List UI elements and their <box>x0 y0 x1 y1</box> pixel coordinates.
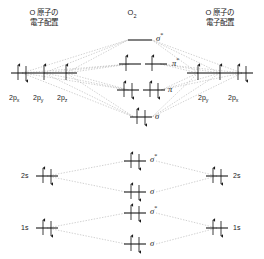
correlation-lines-2s <box>47 161 217 192</box>
correlation-lines-1s <box>47 213 217 244</box>
label-pi-star-2p: π* <box>172 57 179 68</box>
label-sigma-star-2p: σ* <box>156 32 163 43</box>
label-right-2s: 2s <box>233 172 240 179</box>
label-right-2p-y: 2py <box>198 94 208 103</box>
label-sigma-star-1s: σ* <box>150 205 157 216</box>
label-left-2p-y: 2py <box>33 94 43 103</box>
label-sigma-star-2s: σ* <box>150 153 157 164</box>
correlation-lines-2p <box>22 40 242 117</box>
energy-level-lines <box>11 40 253 244</box>
mo-svg-canvas <box>0 0 264 259</box>
label-left-2p-x: 2px <box>9 94 19 103</box>
label-sigma-2p: σ <box>155 111 159 121</box>
label-sigma-2s: σ <box>150 186 154 196</box>
label-left-2s: 2s <box>21 172 28 179</box>
label-left-2p-z: 2pz <box>57 94 67 103</box>
mo-diagram: O 原子の 電子配置 O2 O 原子の 電子配置 <box>0 0 264 259</box>
label-sigma-1s: σ <box>150 238 154 248</box>
electron-arrows <box>18 56 246 252</box>
label-right-2p-x: 2px <box>228 94 238 103</box>
label-left-1s: 1s <box>21 224 28 231</box>
label-right-1s: 1s <box>233 224 240 231</box>
label-pi-2p: π <box>168 84 172 94</box>
